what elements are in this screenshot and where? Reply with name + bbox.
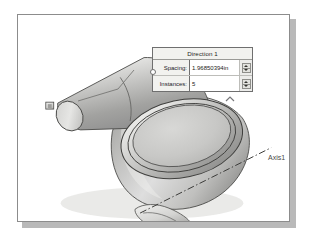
dialog-title: Direction 1 (153, 48, 252, 60)
model-render (18, 15, 289, 221)
spinner-down-icon[interactable] (242, 68, 251, 73)
axis-label: Axis1 (268, 154, 285, 161)
instances-input[interactable]: 5 (189, 76, 240, 91)
screenshot-root: Axis1 Direction 1 Spacing: 1.96850394in (0, 0, 314, 240)
anchor-dot-icon[interactable] (150, 69, 156, 75)
chevron-up-icon[interactable] (224, 95, 236, 103)
cylinder-end-tab-face (48, 104, 52, 108)
instances-label: Instances: (153, 76, 189, 91)
cad-viewport[interactable]: Axis1 Direction 1 Spacing: 1.96850394in (17, 14, 290, 222)
instances-spinner[interactable] (240, 76, 252, 91)
instances-field-row[interactable]: Instances: 5 (153, 76, 252, 91)
spacing-field-row[interactable]: Spacing: 1.96850394in (153, 60, 252, 76)
direction-1-dialog[interactable]: Direction 1 Spacing: 1.96850394in Instan… (152, 47, 253, 92)
spacing-spinner[interactable] (240, 60, 252, 75)
spinner-down-icon[interactable] (242, 84, 251, 89)
spacing-input[interactable]: 1.96850394in (189, 60, 240, 75)
spacing-label: Spacing: (153, 60, 189, 75)
